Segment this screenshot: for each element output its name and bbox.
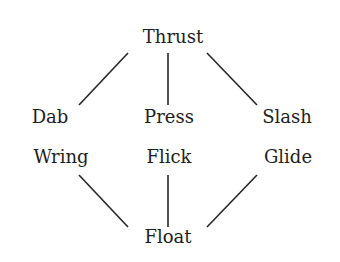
node-press: Press xyxy=(144,108,194,126)
node-dab: Dab xyxy=(32,108,69,126)
edge-glide-float xyxy=(207,175,257,227)
effort-diagram: Thrust Dab Press Slash Wring Flick Glide… xyxy=(0,0,340,262)
node-float: Float xyxy=(144,228,191,246)
node-flick: Flick xyxy=(147,148,192,166)
node-glide: Glide xyxy=(264,148,312,166)
node-wring: Wring xyxy=(33,148,88,166)
edge-thrust-slash xyxy=(207,53,257,105)
node-slash: Slash xyxy=(262,108,312,126)
edge-wring-float xyxy=(79,175,128,227)
node-thrust: Thrust xyxy=(143,28,203,46)
edge-thrust-dab xyxy=(79,53,128,105)
